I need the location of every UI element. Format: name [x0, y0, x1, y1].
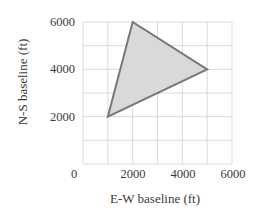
- y-tick-6000: 6000: [50, 15, 75, 29]
- chart: 0 2000 4000 6000 2000 4000 6000 E-W base…: [0, 0, 254, 216]
- y-tick-4000: 4000: [50, 62, 75, 76]
- y-tick-2000: 2000: [50, 110, 75, 124]
- x-tick-0: 0: [71, 167, 77, 181]
- x-axis-title: E-W baseline (ft): [110, 191, 200, 206]
- y-axis-title: N-S baseline (ft): [15, 39, 30, 126]
- x-tick-6000: 6000: [221, 167, 246, 181]
- x-tick-2000: 2000: [121, 167, 146, 181]
- x-tick-4000: 4000: [171, 167, 196, 181]
